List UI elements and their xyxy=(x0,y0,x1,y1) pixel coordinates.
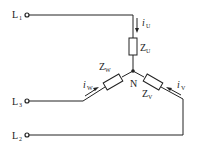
l2-label: L xyxy=(12,130,18,141)
zv-sub: V xyxy=(148,94,153,100)
line-l2: L 2 xyxy=(12,130,29,142)
iv-label: i xyxy=(177,79,180,90)
l3-label: L xyxy=(12,96,18,107)
l2-terminal-icon xyxy=(25,133,29,137)
current-iw: i W xyxy=(83,79,99,96)
current-iu: i U xyxy=(135,17,151,33)
iv-sub: V xyxy=(181,85,186,91)
l1-sub: 1 xyxy=(19,15,22,21)
iu-label: i xyxy=(142,17,145,28)
zw-wire-bottom xyxy=(27,87,105,101)
line-l3: L 3 xyxy=(12,96,29,108)
impedance-zu: Z U xyxy=(129,38,151,71)
l1-terminal-icon xyxy=(25,13,29,17)
line-l1: L 1 xyxy=(12,9,133,38)
zw-sub: W xyxy=(105,67,111,73)
l1-label: L xyxy=(12,9,18,20)
iw-sub: W xyxy=(87,85,93,91)
iu-arrow-icon xyxy=(135,28,139,33)
zw-resistor-icon xyxy=(103,74,123,90)
impedance-zv: Z V xyxy=(27,71,183,135)
zv-wire-top xyxy=(133,71,144,77)
l1-wire xyxy=(29,15,133,38)
zu-resistor-icon xyxy=(129,38,137,55)
zw-wire-top xyxy=(122,71,133,77)
l3-sub: 3 xyxy=(19,102,22,108)
zu-sub: U xyxy=(146,48,151,54)
current-iv: i V xyxy=(166,79,186,95)
impedance-zw: Z W xyxy=(27,61,133,101)
l2-sub: 2 xyxy=(19,136,22,142)
star-connection-diagram: L 1 i U Z U N Z W i W L xyxy=(0,0,197,153)
neutral-label: N xyxy=(130,78,137,89)
l3-terminal-icon xyxy=(25,99,29,103)
zv-wire-bottom xyxy=(27,87,183,135)
iu-sub: U xyxy=(146,23,151,29)
iw-label: i xyxy=(83,79,86,90)
